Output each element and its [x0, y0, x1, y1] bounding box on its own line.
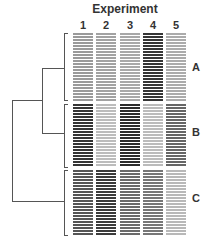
heatmap-cell: [120, 45, 140, 47]
heatmap-cell: [166, 116, 186, 118]
heatmap-cell: [143, 48, 163, 50]
heatmap-cell: [120, 233, 140, 235]
heatmap-cell: [143, 179, 163, 181]
heatmap-cell: [120, 185, 140, 187]
heatmap-cell: [120, 194, 140, 196]
heatmap-cell: [166, 104, 186, 106]
heatmap-cell: [96, 116, 116, 118]
heatmap-cell: [120, 140, 140, 142]
heatmap-cell: [73, 48, 93, 50]
heatmap-cell: [73, 203, 93, 205]
heatmap-cell: [120, 218, 140, 220]
heatmap-cell: [73, 72, 93, 74]
heatmap-cell: [96, 155, 116, 157]
heatmap-cell: [96, 42, 116, 44]
heatmap-cell: [120, 182, 140, 184]
heatmap-cell: [166, 149, 186, 151]
heatmap-cell: [96, 200, 116, 202]
heatmap-cell: [143, 191, 163, 193]
heatmap-cell: [96, 215, 116, 217]
heatmap-cell: [96, 84, 116, 86]
heatmap-cell: [143, 125, 163, 127]
heatmap-cell: [96, 224, 116, 226]
heatmap-cell: [73, 209, 93, 211]
heatmap-cell: [120, 224, 140, 226]
heatmap-cell: [166, 36, 186, 38]
heatmap-cell: [166, 33, 186, 35]
heatmap-cell: [73, 66, 93, 68]
heatmap-cell: [166, 212, 186, 214]
heatmap-cell: [73, 128, 93, 130]
heatmap-cell: [73, 45, 93, 47]
heatmap-cell: [96, 185, 116, 187]
heatmap-cell: [96, 134, 116, 136]
heatmap-cell: [73, 170, 93, 172]
heatmap-cell: [96, 158, 116, 160]
heatmap-cell: [96, 206, 116, 208]
heatmap-cell: [143, 78, 163, 80]
heatmap-cell: [166, 66, 186, 68]
heatmap-cell: [166, 63, 186, 65]
heatmap-cell: [96, 209, 116, 211]
heatmap-cell: [120, 87, 140, 89]
heatmap-cell: [73, 51, 93, 53]
heatmap-cell: [166, 119, 186, 121]
heatmap-cell: [166, 93, 186, 95]
heatmap-cell: [166, 69, 186, 71]
heatmap-cell: [73, 116, 93, 118]
heatmap-cell: [143, 57, 163, 59]
heatmap-cell: [96, 188, 116, 190]
heatmap-cell: [73, 227, 93, 229]
heatmap-cell: [143, 131, 163, 133]
heatmap-cell: [143, 206, 163, 208]
heatmap-cell: [120, 81, 140, 83]
heatmap-cell: [96, 137, 116, 139]
heatmap-cell: [143, 122, 163, 124]
heatmap-cell: [96, 146, 116, 148]
heatmap-cell: [96, 233, 116, 235]
heatmap-cell: [143, 140, 163, 142]
heatmap-cell: [96, 81, 116, 83]
heatmap-cell: [120, 128, 140, 130]
heatmap-cell: [143, 116, 163, 118]
heatmap-cell: [143, 45, 163, 47]
heatmap-cell: [96, 48, 116, 50]
heatmap-cell: [166, 140, 186, 142]
heatmap-cell: [120, 72, 140, 74]
heatmap-cell: [120, 161, 140, 163]
heatmap-cell: [143, 128, 163, 130]
heatmap-cell: [166, 99, 186, 101]
heatmap-cell: [120, 221, 140, 223]
heatmap-cell: [143, 197, 163, 199]
heatmap-cell: [143, 149, 163, 151]
heatmap-cell: [166, 233, 186, 235]
heatmap-cell: [143, 221, 163, 223]
heatmap-cell: [120, 203, 140, 205]
heatmap-cell: [143, 218, 163, 220]
heatmap-cell: [96, 176, 116, 178]
heatmap-cell: [143, 81, 163, 83]
heatmap-cell: [143, 36, 163, 38]
heatmap-cell: [166, 191, 186, 193]
heatmap-cell: [120, 215, 140, 217]
heatmap-cell: [96, 140, 116, 142]
heatmap-cell: [143, 161, 163, 163]
heatmap-cell: [73, 233, 93, 235]
heatmap-cell: [166, 131, 186, 133]
heatmap-cell: [96, 87, 116, 89]
heatmap-cell: [120, 197, 140, 199]
heatmap-cell: [96, 36, 116, 38]
heatmap-cell: [73, 224, 93, 226]
heatmap-cell: [73, 57, 93, 59]
heatmap-cell: [96, 173, 116, 175]
heatmap-cell: [166, 203, 186, 205]
heatmap-cell: [166, 206, 186, 208]
heatmap-cell: [120, 170, 140, 172]
heatmap-cell: [96, 170, 116, 172]
heatmap-cell: [73, 221, 93, 223]
heatmap-cell: [143, 227, 163, 229]
heatmap-cell: [143, 42, 163, 44]
heatmap-cell: [96, 110, 116, 112]
heatmap-cell: [96, 212, 116, 214]
heatmap-cell: [166, 227, 186, 229]
